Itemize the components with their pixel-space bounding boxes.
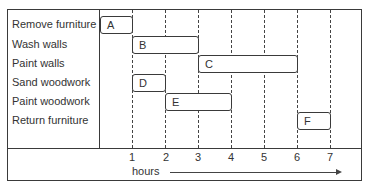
bar-c-label: C [205, 58, 213, 71]
x-axis-title: hours [132, 165, 160, 178]
tick-label-6: 6 [290, 151, 304, 164]
task-label-remove-furniture: Remove furniture [12, 18, 96, 31]
task-label-sand-woodwork: Sand woodwork [12, 76, 90, 89]
bar-d-label: D [139, 77, 147, 90]
bar-c: C [198, 55, 298, 73]
tick-label-1: 1 [125, 151, 139, 164]
arrow-right-icon [336, 169, 342, 175]
tick-label-2: 2 [159, 151, 173, 164]
bar-f-label: F [304, 115, 311, 128]
bar-e: E [165, 93, 232, 111]
gridline-3 [198, 10, 199, 148]
bar-e-label: E [172, 96, 179, 109]
task-label-paint-walls: Paint walls [12, 57, 65, 70]
bar-a: A [100, 16, 133, 34]
gridline-5 [264, 10, 265, 148]
gridline-4 [231, 10, 232, 148]
task-label-return-furniture: Return furniture [12, 114, 88, 127]
axis-arrow-line [170, 172, 338, 173]
tick-label-7: 7 [323, 151, 337, 164]
task-label-paint-woodwork: Paint woodwork [12, 95, 90, 108]
tick-label-5: 5 [257, 151, 271, 164]
task-label-wash-walls: Wash walls [12, 38, 67, 51]
bar-d: D [132, 74, 166, 92]
tick-label-3: 3 [191, 151, 205, 164]
bar-a-label: A [107, 19, 114, 32]
bar-b-label: B [139, 39, 146, 52]
tick-label-4: 4 [224, 151, 238, 164]
bar-b: B [132, 36, 199, 54]
bar-f: F [297, 112, 331, 130]
axis-divider [7, 148, 362, 149]
